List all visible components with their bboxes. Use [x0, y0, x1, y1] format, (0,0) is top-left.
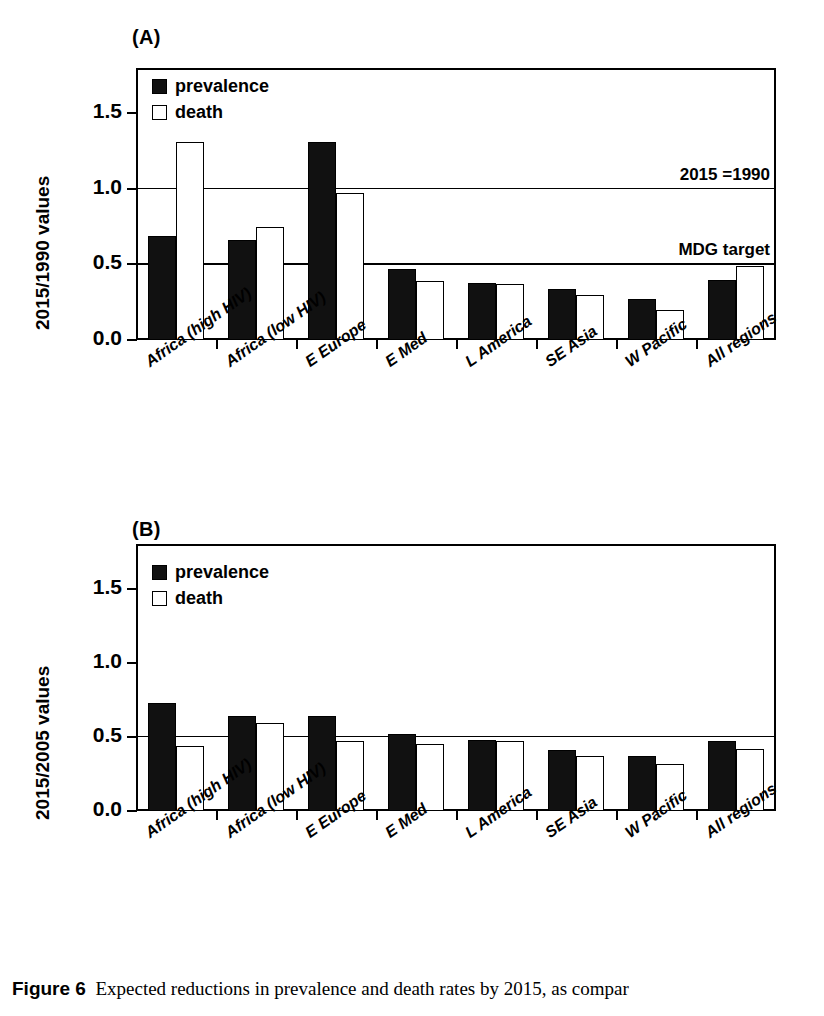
y-tick-label: 0.0 — [93, 797, 122, 821]
bar-prevalence — [548, 750, 576, 811]
legend-item-death: death — [152, 102, 269, 123]
x-tick-mark — [456, 811, 458, 820]
legend-item-death: death — [152, 588, 269, 609]
x-tick-mark — [376, 811, 378, 820]
legend-label-prevalence: prevalence — [175, 562, 269, 583]
y-tick-label: 1.5 — [93, 575, 122, 599]
x-tick-mark — [696, 340, 698, 349]
x-tick-mark — [536, 811, 538, 820]
legend-label-death: death — [175, 588, 223, 609]
reference-line-label: MDG target — [678, 240, 770, 260]
bar-prevalence — [548, 289, 576, 340]
reference-line — [136, 188, 776, 190]
bar-prevalence — [148, 703, 176, 811]
x-tick-mark — [376, 340, 378, 349]
y-tick-mark — [127, 339, 137, 341]
prevalence-swatch-icon — [152, 565, 167, 580]
x-tick-mark — [216, 811, 218, 820]
bar-prevalence — [708, 741, 736, 811]
panel-b-y-axis-title: 2015/2005 values — [32, 666, 54, 820]
bar-prevalence — [148, 236, 176, 340]
death-swatch-icon — [152, 105, 167, 120]
panel-a-label: (A) — [132, 26, 161, 49]
panel-b-label: (B) — [132, 518, 161, 541]
x-tick-mark — [216, 340, 218, 349]
x-tick-mark — [616, 811, 618, 820]
bar-prevalence — [708, 280, 736, 340]
legend-label-death: death — [175, 102, 223, 123]
prevalence-swatch-icon — [152, 79, 167, 94]
y-tick-label: 1.0 — [93, 175, 122, 199]
figure-caption-label: Figure 6 — [12, 978, 86, 999]
bar-prevalence — [388, 269, 416, 340]
x-tick-mark — [296, 811, 298, 820]
y-tick-label: 1.5 — [93, 99, 122, 123]
y-tick-label: 0.0 — [93, 326, 122, 350]
y-tick-mark — [127, 810, 137, 812]
x-tick-mark — [456, 340, 458, 349]
y-tick-mark — [127, 662, 137, 664]
y-tick-mark — [127, 588, 137, 590]
y-tick-mark — [127, 112, 137, 114]
bar-death — [176, 142, 204, 340]
legend-item-prevalence: prevalence — [152, 562, 269, 583]
x-tick-mark — [296, 340, 298, 349]
figure-caption-text: Expected reductions in prevalence and de… — [95, 978, 628, 999]
bar-prevalence — [468, 740, 496, 811]
y-tick-label: 0.5 — [93, 250, 122, 274]
legend-item-prevalence: prevalence — [152, 76, 269, 97]
bar-prevalence — [468, 283, 496, 340]
x-tick-mark — [536, 340, 538, 349]
bar-prevalence — [388, 734, 416, 811]
legend-label-prevalence: prevalence — [175, 76, 269, 97]
panel-a-legend: prevalence death — [152, 76, 269, 128]
chart-panel-b: (B) 2015/2005 values 0.00.51.01.5 Africa… — [0, 500, 824, 950]
reference-line-label: 2015 =1990 — [680, 165, 770, 185]
panel-a-y-axis-title: 2015/1990 values — [32, 176, 54, 330]
y-tick-label: 1.0 — [93, 649, 122, 673]
x-tick-mark — [616, 340, 618, 349]
figure-caption: Figure 6 Expected reductions in prevalen… — [12, 978, 824, 1000]
y-tick-label: 0.5 — [93, 723, 122, 747]
panel-b-legend: prevalence death — [152, 562, 269, 614]
chart-panel-a: (A) 2015/1990 values 0.00.51.01.5 2015 =… — [0, 0, 824, 500]
x-tick-mark — [696, 811, 698, 820]
bar-prevalence — [628, 756, 656, 811]
death-swatch-icon — [152, 591, 167, 606]
